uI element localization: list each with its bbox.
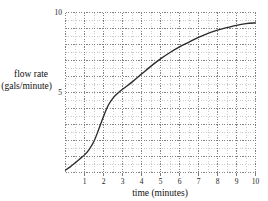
y-tick-label: 10 bbox=[55, 8, 63, 17]
y-tick-label: 5 bbox=[58, 88, 62, 97]
x-tick-label: 4 bbox=[140, 177, 144, 186]
y-axis-label-line2: (gals/minute) bbox=[1, 81, 52, 92]
x-tick-label: 3 bbox=[121, 177, 125, 186]
x-tick-label: 8 bbox=[216, 177, 220, 186]
x-tick-label: 10 bbox=[252, 177, 260, 186]
flow-rate-chart: 12345678910 510 time (minutes) flow rate… bbox=[0, 0, 268, 201]
y-axis-label-line1: flow rate bbox=[14, 69, 48, 79]
chart-figure: 12345678910 510 time (minutes) flow rate… bbox=[0, 0, 268, 201]
x-tick-label: 7 bbox=[197, 177, 201, 186]
x-axis-label: time (minutes) bbox=[132, 188, 188, 199]
x-tick-label: 2 bbox=[102, 177, 106, 186]
x-tick-label: 5 bbox=[159, 177, 163, 186]
x-tick-label: 9 bbox=[235, 177, 239, 186]
x-tick-label: 1 bbox=[83, 177, 87, 186]
x-tick-label: 6 bbox=[178, 177, 182, 186]
